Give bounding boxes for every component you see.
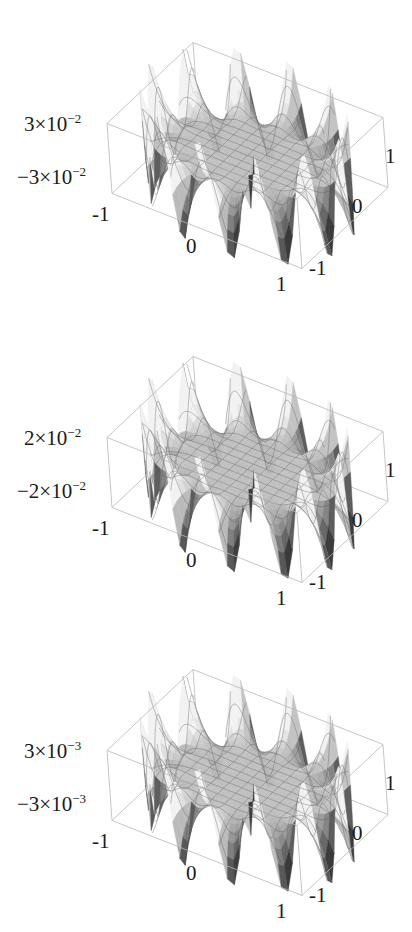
z-tick-top: 2×10−2: [24, 428, 81, 449]
y-tick-mid: 0: [352, 510, 363, 531]
plot-canvas: [0, 0, 412, 312]
plot-canvas: [0, 627, 412, 932]
x-tick-mid: 0: [186, 550, 197, 571]
plot-canvas: [0, 314, 412, 626]
x-tick-min: -1: [92, 518, 110, 539]
x-tick-max: 1: [276, 588, 287, 609]
surface-plot-2: 2×10−2 −2×10−2 -1 0 1 -1 0 1: [0, 314, 412, 626]
x-tick-min: -1: [92, 831, 110, 852]
y-tick-mid: 0: [352, 823, 363, 844]
z-tick-bottom: −3×10−2: [17, 167, 86, 188]
z-tick-top: 3×10−2: [24, 114, 81, 135]
x-tick-mid: 0: [186, 236, 197, 257]
x-tick-max: 1: [276, 274, 287, 295]
z-tick-bottom: −3×10−3: [17, 794, 86, 815]
z-tick-bottom: −2×10−2: [17, 481, 86, 502]
y-tick-max: 1: [385, 146, 396, 167]
x-tick-mid: 0: [186, 863, 197, 884]
y-tick-mid: 0: [352, 196, 363, 217]
z-tick-top: 3×10−3: [24, 741, 81, 762]
surface-plot-1: 3×10−2 −3×10−2 -1 0 1 -1 0 1: [0, 0, 412, 312]
y-tick-max: 1: [385, 773, 396, 794]
y-tick-min: -1: [309, 885, 327, 906]
surface-plot-3: 3×10−3 −3×10−3 -1 0 1 -1 0 1: [0, 627, 412, 932]
y-tick-min: -1: [309, 572, 327, 593]
x-tick-max: 1: [276, 901, 287, 922]
y-tick-max: 1: [385, 460, 396, 481]
x-tick-min: -1: [92, 204, 110, 225]
y-tick-min: -1: [309, 258, 327, 279]
